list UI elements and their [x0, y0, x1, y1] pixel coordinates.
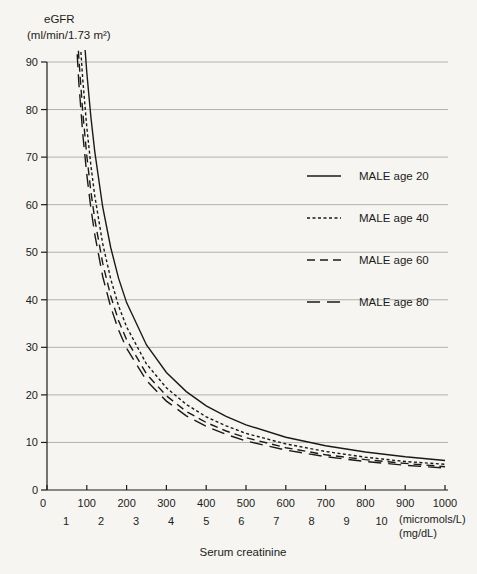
legend-item-male-age-60: MALE age 60: [306, 253, 429, 267]
svg-text:20: 20: [26, 389, 38, 401]
svg-text:90: 90: [26, 56, 38, 68]
x-tick-labels-micromols: 01002003004005006007008009001000: [40, 497, 457, 509]
svg-text:30: 30: [26, 341, 38, 353]
egfr-figure: eGFR (ml/min/1.73 m²) 010203040506070809…: [0, 0, 477, 574]
legend-line-sample-dashed: [306, 256, 342, 264]
svg-text:400: 400: [197, 497, 215, 509]
svg-text:200: 200: [117, 497, 135, 509]
svg-text:60: 60: [26, 199, 38, 211]
svg-text:70: 70: [26, 151, 38, 163]
svg-text:7: 7: [273, 515, 279, 527]
svg-text:9: 9: [343, 515, 349, 527]
svg-text:700: 700: [316, 497, 334, 509]
x-axis-unit-micromols: (micromols/L): [399, 513, 466, 526]
svg-text:2: 2: [98, 515, 104, 527]
legend-line-sample-solid: [306, 172, 342, 180]
svg-text:3: 3: [133, 515, 139, 527]
svg-text:50: 50: [26, 246, 38, 258]
svg-text:5: 5: [203, 515, 209, 527]
svg-text:8: 8: [308, 515, 314, 527]
legend-item-male-age-80: MALE age 80: [306, 295, 429, 309]
legend-label: MALE age 80: [359, 296, 429, 308]
svg-text:80: 80: [26, 104, 38, 116]
svg-text:0: 0: [40, 497, 46, 509]
svg-text:500: 500: [237, 497, 255, 509]
legend: MALE age 20 MALE age 40 MALE age 60 MALE…: [306, 169, 429, 337]
legend-label: MALE age 40: [359, 212, 429, 224]
svg-text:1000: 1000: [433, 497, 457, 509]
svg-text:10: 10: [375, 515, 387, 527]
svg-text:6: 6: [238, 515, 244, 527]
legend-line-sample-long-dash: [306, 298, 342, 306]
x-axis-title: Serum creatinine: [0, 546, 477, 558]
legend-label: MALE age 20: [359, 170, 429, 182]
legend-item-male-age-20: MALE age 20: [306, 169, 429, 183]
svg-text:100: 100: [78, 497, 96, 509]
svg-text:40: 40: [26, 294, 38, 306]
x-tick-labels-mgdl: 12345678910: [63, 515, 388, 527]
svg-text:0: 0: [32, 484, 38, 496]
svg-text:10: 10: [26, 436, 38, 448]
x-axis-unit-mgdl: (mg/dL): [399, 527, 437, 540]
svg-text:4: 4: [168, 515, 174, 527]
svg-text:600: 600: [277, 497, 295, 509]
svg-text:900: 900: [396, 497, 414, 509]
legend-label: MALE age 60: [359, 254, 429, 266]
legend-item-male-age-40: MALE age 40: [306, 211, 429, 225]
svg-text:800: 800: [356, 497, 374, 509]
y-tick-labels: 0102030405060708090: [26, 56, 38, 496]
legend-line-sample-dotted: [306, 214, 342, 222]
svg-text:300: 300: [157, 497, 175, 509]
svg-text:1: 1: [63, 515, 69, 527]
